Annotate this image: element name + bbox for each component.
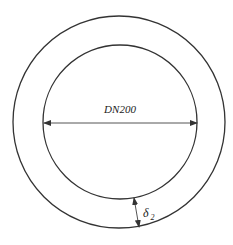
wall-thickness-dimension-line: [134, 198, 139, 227]
outer-pipe-wall-circle: [13, 16, 225, 228]
inner-pipe-wall-circle: [43, 45, 197, 199]
diameter-label: DN200: [103, 103, 136, 115]
pipe-cross-section-diagram: DN200 δ2: [0, 0, 233, 245]
wall-thickness-label: δ2: [143, 206, 155, 222]
delta-symbol: δ: [143, 206, 149, 220]
thickness-subscript: 2: [151, 213, 155, 222]
